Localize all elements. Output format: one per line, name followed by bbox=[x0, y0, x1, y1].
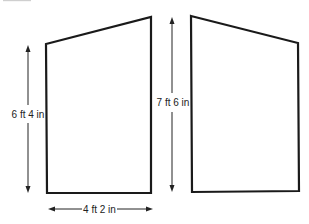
bottom-width-dimension: 4 ft 2 in bbox=[48, 204, 153, 215]
left-wall-panel bbox=[46, 17, 151, 193]
right-height-dimension: 7 ft 6 in bbox=[157, 17, 190, 192]
right-wall-panel bbox=[191, 16, 299, 192]
arrow-right-icon bbox=[146, 207, 153, 212]
left-height-dimension: 6 ft 4 in bbox=[12, 45, 45, 193]
arrow-down-icon bbox=[170, 185, 175, 192]
bottom-width-label: 4 ft 2 in bbox=[83, 204, 116, 215]
cropped-text-remnant bbox=[3, 0, 31, 1]
right-height-label: 7 ft 6 in bbox=[157, 97, 190, 108]
left-height-label: 6 ft 4 in bbox=[12, 109, 45, 120]
arrow-down-icon bbox=[26, 186, 31, 193]
diagram-canvas: 6 ft 4 in 4 ft 2 in 7 ft 6 in bbox=[0, 0, 309, 224]
arrow-up-icon bbox=[170, 17, 175, 24]
arrow-left-icon bbox=[48, 207, 55, 212]
arrow-up-icon bbox=[26, 45, 31, 52]
